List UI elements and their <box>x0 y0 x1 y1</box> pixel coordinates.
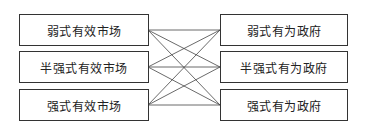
left-box-weak-efficient-market: 弱式有效市场 <box>19 14 149 46</box>
left-box-semi-strong-efficient-market: 半强式有效市场 <box>19 51 149 83</box>
right-box-weak-capable-government: 弱式有为政府 <box>220 14 348 46</box>
box-label: 半强式有为政府 <box>240 59 328 76</box>
box-label: 弱式有为政府 <box>247 22 322 39</box>
box-label: 弱式有效市场 <box>47 22 122 39</box>
box-label: 强式有效市场 <box>47 97 122 114</box>
box-label: 半强式有效市场 <box>40 59 128 76</box>
left-box-strong-efficient-market: 强式有效市场 <box>19 89 149 121</box>
right-box-strong-capable-government: 强式有为政府 <box>220 89 348 121</box>
box-label: 强式有为政府 <box>247 97 322 114</box>
right-box-semi-strong-capable-government: 半强式有为政府 <box>220 51 348 83</box>
